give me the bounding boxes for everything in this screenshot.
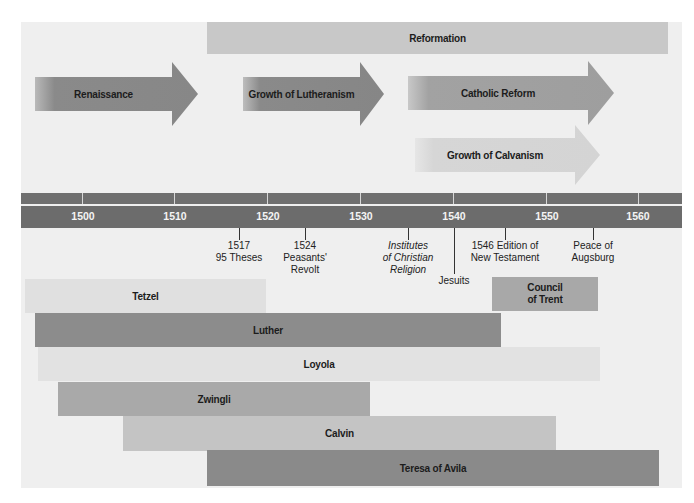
year-label: 1560 [626,210,649,222]
bar-loyola: Loyola [38,347,600,381]
bar-calvin: Calvin [123,416,556,451]
event-peasants-revolt: 1524 Peasants' Revolt [283,240,327,276]
bar-zwingli: Zwingli [58,382,370,416]
year-label: 1550 [535,210,558,222]
event-95-theses: 1517 95 Theses [216,240,263,264]
year-label: 1520 [256,210,279,222]
renaissance-label: Renaissance [35,62,172,126]
tick-1530 [360,193,361,204]
bar-luther: Luther [35,313,501,347]
bar-teresa-of-avila: Teresa of Avila [207,450,659,486]
bar-council-of-trent: Council of Trent [492,277,598,311]
event-tick [408,228,409,240]
renaissance-arrow: Renaissance [35,62,198,126]
lutheranism-label: Growth of Lutheranism [243,62,360,126]
reformation-label: Reformation [409,33,466,44]
tick-1510 [174,193,175,204]
event-peace-of-augsburg: Peace of Augsburg [572,240,615,264]
year-label: 1540 [442,210,465,222]
tick-1520 [267,193,268,204]
bar-tetzel: Tetzel [25,279,266,313]
event-tick [305,228,306,240]
event-jesuits: Jesuits [438,275,469,287]
event-institutes: Institutes of Christian Religion [383,240,434,276]
tick-1560 [638,193,639,204]
lutheranism-arrow: Growth of Lutheranism [243,62,384,126]
event-tick [239,228,240,240]
tick-1540 [453,193,454,204]
event-tick [505,228,506,240]
event-tick [454,228,455,274]
reformation-bar: Reformation [207,22,668,54]
event-tick [593,228,594,240]
timeline-axis: 1500 1510 1520 1530 1540 1550 1560 [21,206,682,228]
year-label: 1530 [349,210,372,222]
tick-1550 [546,193,547,204]
calvanism-label: Growth of Calvanism [415,125,575,185]
calvanism-arrow: Growth of Calvanism [415,125,600,185]
timeline-upper-band [21,193,682,204]
tick-1500 [82,193,83,204]
catholic-reform-arrow: Catholic Reform [408,61,614,125]
year-label: 1510 [163,210,186,222]
catholic-reform-label: Catholic Reform [408,61,588,125]
year-label: 1500 [71,210,94,222]
event-new-testament: 1546 Edition of New Testament [471,240,540,264]
